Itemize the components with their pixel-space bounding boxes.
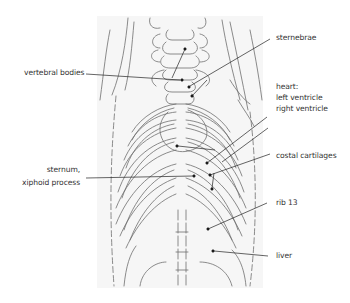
anatomy-diagram: vertebral bodies sternebrae heart: left … [0, 0, 350, 303]
label-heart: heart: [276, 82, 298, 92]
label-vertebral-bodies: vertebral bodies [24, 68, 84, 78]
label-sternum: sternum, [14, 165, 80, 175]
label-xiphoid-process: xiphoid process [14, 178, 80, 188]
label-liver: liver [276, 251, 292, 261]
label-sternebrae: sternebrae [276, 33, 316, 43]
label-right-ventricle: right ventricle [276, 104, 328, 114]
label-left-ventricle: left ventricle [276, 93, 322, 103]
label-costal-cartilages: costal cartilages [276, 151, 336, 161]
label-rib-13: rib 13 [276, 198, 298, 208]
